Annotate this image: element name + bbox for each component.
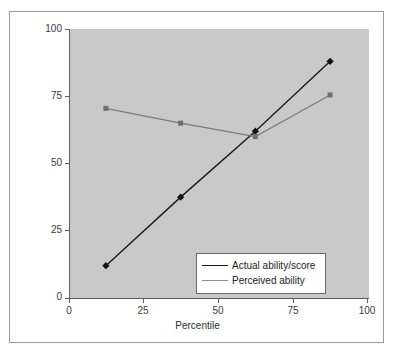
x-tick-label-100: 100 <box>352 305 382 316</box>
x-tick-label-25: 25 <box>128 305 158 316</box>
y-tick-mark <box>65 96 69 97</box>
y-tick-label-100: 100 <box>32 23 62 34</box>
data-point-marker <box>103 106 108 111</box>
x-tick-mark <box>69 299 70 303</box>
series-line <box>106 61 330 265</box>
legend-item-perceived-ability[interactable]: Perceived ability <box>202 273 320 288</box>
x-tick-label-75: 75 <box>278 305 308 316</box>
y-tick-label-75: 75 <box>32 90 62 101</box>
y-tick-label-0: 0 <box>32 291 62 302</box>
series-perceived-ability <box>103 92 332 139</box>
x-tick-label-50: 50 <box>203 305 233 316</box>
y-tick-mark <box>65 29 69 30</box>
y-tick-mark <box>65 163 69 164</box>
data-point-marker <box>178 121 183 126</box>
data-point-marker <box>328 92 333 97</box>
series-line <box>106 95 330 137</box>
chart-legend: Actual ability/score Perceived ability <box>196 253 326 294</box>
x-axis-title: Percentile <box>10 320 385 331</box>
legend-item-actual-ability[interactable]: Actual ability/score <box>202 258 320 273</box>
legend-label: Actual ability/score <box>232 260 315 271</box>
x-tick-mark <box>218 299 219 303</box>
x-tick-mark <box>367 299 368 303</box>
legend-label: Perceived ability <box>232 275 305 286</box>
chart-figure: 100 75 50 25 0 0 25 50 75 100 Percentile… <box>9 11 384 343</box>
diamond-marker-icon <box>202 260 228 272</box>
series-actual-ability-score <box>102 58 333 270</box>
x-tick-label-0: 0 <box>54 305 84 316</box>
square-marker-icon <box>202 275 228 287</box>
x-tick-mark <box>143 299 144 303</box>
y-tick-label-50: 50 <box>32 157 62 168</box>
data-point-marker <box>253 134 258 139</box>
x-tick-mark <box>293 299 294 303</box>
y-tick-mark <box>65 230 69 231</box>
y-tick-label-25: 25 <box>32 224 62 235</box>
